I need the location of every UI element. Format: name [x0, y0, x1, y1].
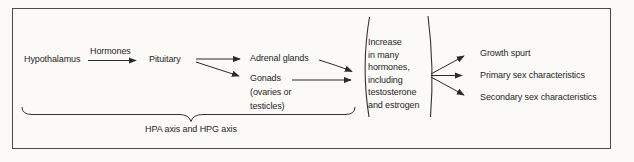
increase-line-6: and estrogen: [368, 99, 419, 112]
node-hypothalamus: Hypothalamus: [24, 54, 80, 65]
increase-line-2: in many: [368, 49, 419, 62]
diagram-lines-layer: [0, 0, 634, 162]
increase-line-3: hormones,: [368, 61, 419, 74]
gonads-line-1: Gonads: [250, 71, 291, 85]
node-primary-sex-characteristics: Primary sex characteristics: [480, 70, 585, 81]
axis-brace-label: HPA axis and HPG axis: [121, 124, 261, 135]
node-secondary-sex-characteristics: Secondary sex characteristics: [480, 92, 597, 103]
gonads-line-3: testicles): [250, 99, 291, 113]
hpa-hpg-flow-diagram: Hypothalamus Hormones Pituitary Adrenal …: [0, 0, 634, 162]
edge-label-hormones: Hormones: [90, 46, 131, 57]
increase-line-5: testosterone: [368, 86, 419, 99]
node-pituitary: Pituitary: [149, 54, 181, 65]
node-adrenal-glands: Adrenal glands: [250, 53, 309, 64]
node-hormone-increase: Increase in many hormones, including tes…: [368, 36, 419, 111]
arrow-pituitary-to-gonads: [196, 62, 239, 76]
node-growth-spurt: Growth spurt: [480, 48, 530, 59]
increase-line-1: Increase: [368, 36, 419, 49]
increase-line-4: including: [368, 74, 419, 87]
arrow-increase-to-secondary-sex: [431, 77, 464, 95]
arrow-increase-to-growth-spurt: [431, 56, 464, 74]
node-gonads: Gonads (ovaries or testicles): [250, 71, 291, 113]
arrow-adrenal-glands-to-increase: [319, 60, 352, 72]
right-parenthesis: [428, 16, 432, 117]
axis-underbrace: [22, 107, 355, 122]
gonads-line-2: (ovaries or: [250, 85, 291, 99]
